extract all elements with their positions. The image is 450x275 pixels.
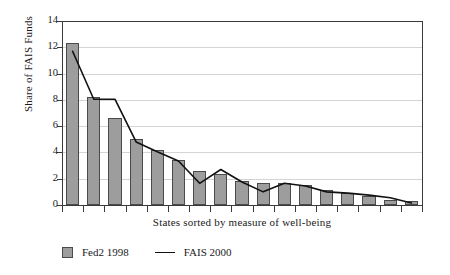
y-tick-label-0: 0 bbox=[28, 199, 58, 209]
x-tick-mark-8 bbox=[231, 206, 232, 212]
x-tick-mark-14 bbox=[358, 206, 359, 212]
x-tick-mark-1 bbox=[83, 206, 84, 212]
plot-wrapper: 02468101214 Share of FAIS Funds States s… bbox=[0, 0, 450, 230]
y-axis-title: Share of FAIS Funds bbox=[22, 0, 34, 144]
x-tick-mark-10 bbox=[274, 206, 275, 212]
x-tick-mark-2 bbox=[104, 206, 105, 212]
x-tick-mark-16 bbox=[401, 206, 402, 212]
x-tick-mark-11 bbox=[295, 206, 296, 212]
line-series-fais-2000 bbox=[62, 21, 422, 205]
line-swatch-icon bbox=[155, 252, 175, 253]
legend-item-fed2-1998[interactable]: Fed2 1998 bbox=[62, 246, 129, 258]
x-tick-mark-3 bbox=[126, 206, 127, 212]
x-tick-mark-5 bbox=[168, 206, 169, 212]
x-axis-title: States sorted by measure of well-being bbox=[62, 216, 422, 228]
legend-item-fais-2000[interactable]: FAIS 2000 bbox=[155, 246, 232, 258]
y-tick-label-2: 2 bbox=[28, 173, 58, 183]
x-tick-mark-4 bbox=[147, 206, 148, 212]
x-tick-mark-12 bbox=[316, 206, 317, 212]
x-tick-mark-0 bbox=[62, 206, 63, 212]
fais-2000-polyline bbox=[73, 51, 412, 203]
x-tick-mark-7 bbox=[210, 206, 211, 212]
legend-label-fais-2000: FAIS 2000 bbox=[184, 246, 232, 258]
x-tick-mark-15 bbox=[380, 206, 381, 212]
square-swatch-icon bbox=[62, 247, 73, 258]
y-tick-label-4: 4 bbox=[28, 146, 58, 156]
x-tick-mark-9 bbox=[253, 206, 254, 212]
x-tick-mark-13 bbox=[337, 206, 338, 212]
x-tick-mark-6 bbox=[189, 206, 190, 212]
x-axis-line bbox=[62, 205, 423, 206]
legend-label-fed2-1998: Fed2 1998 bbox=[82, 246, 129, 258]
chart-figure: 02468101214 Share of FAIS Funds States s… bbox=[0, 0, 450, 275]
chart-legend: Fed2 1998 FAIS 2000 bbox=[62, 246, 232, 258]
plot-frame-right bbox=[422, 21, 423, 206]
x-tick-mark-17 bbox=[422, 206, 423, 212]
